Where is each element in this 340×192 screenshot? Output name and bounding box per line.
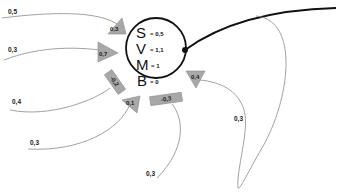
var-letter-m: M: [136, 56, 149, 73]
edge-weight-label: 0,3: [234, 115, 243, 123]
neuron-diagram: 0,5 0,3 0,3 0,7 0,4 -0,2 0,3 0,1 0,3 -0,…: [0, 0, 340, 192]
outgoing-edge: [185, 8, 336, 50]
marker-value: 0,4: [191, 74, 200, 80]
neuron-node[interactable]: S = 0,5 V = 1,1 M = 1 B = 0: [126, 18, 188, 89]
marker-value: 0,3: [110, 26, 119, 32]
edge-weight-label: 0,3: [146, 170, 155, 178]
marker-value: 0,1: [126, 100, 135, 106]
marker-value: 0,7: [99, 51, 108, 57]
incoming-edge-5: 0,3 -0,3: [146, 92, 182, 178]
edge-weight-label: 0,5: [8, 8, 17, 16]
edge-weight-label: 0,3: [8, 46, 17, 54]
output-port-dot: [182, 47, 188, 53]
var-letter-s: S: [136, 24, 146, 41]
incoming-edge-1: 0,5 0,3: [2, 8, 126, 34]
incoming-edge-4: 0,3 0,1: [28, 96, 140, 149]
var-letter-b: B: [137, 72, 147, 89]
edge-weight-label: 0,3: [30, 139, 39, 147]
incoming-edge-3: 0,4 -0,2: [10, 70, 126, 112]
incoming-edge-2: 0,3 0,7: [4, 42, 118, 62]
edge-weight-label: 0,4: [12, 98, 21, 106]
var-value-b: = 0: [150, 79, 159, 85]
var-value-s: = 0,5: [150, 31, 164, 37]
var-value-m: = 1: [151, 63, 160, 69]
var-letter-v: V: [136, 40, 146, 57]
incoming-edge-6-feedback: 0,3 0,4: [186, 16, 286, 188]
var-value-v: = 1,1: [150, 47, 164, 53]
